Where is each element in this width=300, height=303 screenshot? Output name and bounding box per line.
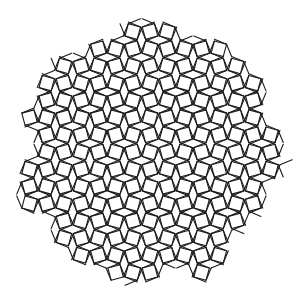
triangle-edge bbox=[227, 44, 232, 56]
triangle-edge bbox=[163, 263, 175, 268]
triangle-edge bbox=[189, 265, 194, 277]
triangle-edge bbox=[280, 160, 292, 165]
triangle-edge bbox=[51, 230, 56, 242]
square-triangle-tiling bbox=[0, 0, 300, 303]
triangle-edge bbox=[249, 211, 261, 216]
triangle-edge bbox=[244, 61, 249, 73]
triangle-edge bbox=[261, 79, 266, 91]
triangle-edge bbox=[25, 125, 37, 130]
triangle-edge bbox=[73, 53, 85, 58]
triangle-edge bbox=[17, 196, 22, 208]
triangle-edge bbox=[51, 58, 56, 70]
triangle-edge bbox=[175, 27, 180, 39]
triangle-edge bbox=[94, 263, 106, 268]
triangle-edge bbox=[142, 19, 154, 24]
triangle-edge bbox=[261, 113, 266, 125]
triangle-edge bbox=[261, 182, 266, 194]
triangle-edge bbox=[34, 144, 39, 156]
triangle-edge bbox=[68, 248, 73, 260]
triangle-edge bbox=[278, 130, 283, 142]
triangle-edge bbox=[120, 24, 125, 36]
triangle-edge bbox=[278, 165, 283, 177]
triangle-edge bbox=[232, 229, 244, 234]
triangle-edge bbox=[194, 36, 206, 41]
tiling-polygons bbox=[17, 19, 292, 285]
triangle-edge bbox=[42, 211, 54, 216]
